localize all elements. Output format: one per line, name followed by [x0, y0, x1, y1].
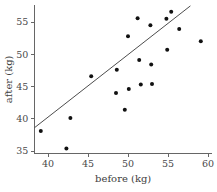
data-point: [177, 27, 181, 31]
x-axis: 4045505560: [34, 154, 214, 169]
data-point: [126, 34, 130, 38]
x-axis-title: before (kg): [95, 173, 151, 184]
data-point: [199, 39, 203, 43]
y-axis-title: after (kg): [3, 55, 14, 103]
x-tick-label: 40: [42, 158, 54, 169]
y-tick-label: 55: [16, 16, 28, 27]
x-tick-label: 50: [122, 158, 134, 169]
data-point-group: [39, 10, 203, 151]
regression-line-group: [34, 6, 190, 128]
regression-line: [34, 6, 190, 128]
data-point: [149, 63, 153, 67]
data-point: [39, 129, 43, 133]
y-tick-label: 45: [16, 81, 28, 92]
y-tick-label: 40: [16, 113, 28, 124]
data-point: [150, 82, 154, 86]
data-point: [137, 58, 141, 62]
data-point: [115, 68, 119, 72]
data-point: [114, 91, 118, 95]
data-point: [127, 87, 131, 91]
data-point: [164, 17, 168, 21]
data-point: [123, 108, 127, 112]
y-tick-group: 3540455055: [16, 16, 34, 156]
data-point: [148, 23, 152, 27]
data-point: [136, 16, 140, 20]
data-point: [64, 146, 68, 150]
x-tick-group: 4045505560: [42, 154, 214, 169]
data-point: [165, 48, 169, 52]
data-point: [89, 74, 93, 78]
data-point: [139, 83, 143, 87]
x-tick-label: 45: [82, 158, 94, 169]
y-tick-label: 35: [16, 145, 28, 156]
y-axis: 3540455055: [16, 5, 34, 156]
scatter-plot-figure: 3540455055 4045505560 before (kg) after …: [0, 0, 217, 192]
y-tick-label: 50: [16, 49, 28, 60]
x-tick-label: 55: [162, 158, 174, 169]
plot-canvas: 3540455055 4045505560 before (kg) after …: [0, 0, 217, 192]
data-point: [68, 116, 72, 120]
data-point: [169, 10, 173, 14]
x-tick-label: 60: [202, 158, 214, 169]
